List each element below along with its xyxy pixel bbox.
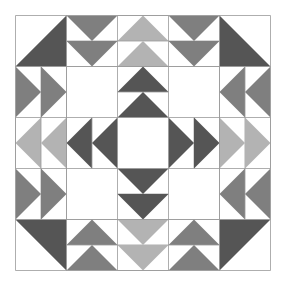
flying-geese-triangle	[41, 169, 67, 220]
flying-geese-triangle	[118, 194, 169, 220]
flying-geese-triangle	[169, 245, 220, 271]
half-square-triangle	[220, 16, 271, 67]
flying-geese-triangle	[16, 67, 42, 118]
flying-geese-triangle	[194, 118, 220, 169]
flying-geese-triangle	[245, 169, 271, 220]
flying-geese-triangle	[67, 220, 118, 246]
flying-geese-triangle	[169, 220, 220, 246]
flying-geese-triangle	[118, 16, 169, 42]
flying-geese-triangle	[118, 41, 169, 67]
flying-geese-triangle	[16, 118, 42, 169]
flying-geese-triangle	[245, 118, 271, 169]
flying-geese-triangle	[118, 245, 169, 271]
flying-geese-triangle	[169, 118, 195, 169]
flying-geese-triangle	[118, 67, 169, 93]
flying-geese-triangle	[245, 67, 271, 118]
flying-geese-triangle	[67, 16, 118, 42]
flying-geese-triangle	[169, 16, 220, 42]
flying-geese-triangle	[67, 41, 118, 67]
flying-geese-triangle	[169, 41, 220, 67]
flying-geese-triangle	[220, 169, 246, 220]
quilt-pattern	[15, 15, 271, 271]
flying-geese-triangle	[41, 67, 67, 118]
flying-geese-triangle	[118, 92, 169, 118]
quilt-block-figure	[15, 15, 271, 271]
flying-geese-triangle	[41, 118, 67, 169]
flying-geese-triangle	[67, 118, 93, 169]
flying-geese-triangle	[67, 245, 118, 271]
flying-geese-triangle	[118, 169, 169, 195]
flying-geese-triangle	[118, 220, 169, 246]
half-square-triangle	[220, 220, 271, 271]
flying-geese-triangle	[220, 118, 246, 169]
flying-geese-triangle	[92, 118, 118, 169]
flying-geese-triangle	[16, 169, 42, 220]
flying-geese-triangle	[220, 67, 246, 118]
